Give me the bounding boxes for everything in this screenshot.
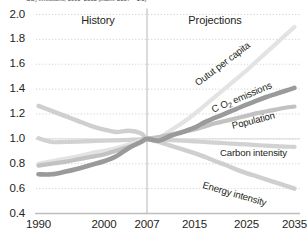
history-zone-label: History bbox=[48, 14, 148, 26]
y-tick-1.2: 1.2 bbox=[1, 107, 25, 119]
y-tick-0.8: 0.8 bbox=[1, 157, 25, 169]
series-label-carbon-intensity: Carbon intensity bbox=[220, 147, 287, 158]
x-tick-2015: 2015 bbox=[173, 218, 217, 230]
x-tick-2035: 2035 bbox=[273, 218, 308, 230]
y-tick-1.8: 1.8 bbox=[1, 32, 25, 44]
x-tick-2007: 2007 bbox=[125, 218, 169, 230]
y-tick-2.0: 2.0 bbox=[1, 8, 25, 20]
x-tick-1990: 1990 bbox=[17, 218, 61, 230]
y-tick-0.6: 0.6 bbox=[1, 182, 25, 194]
y-tick-1.0: 1.0 bbox=[1, 132, 25, 144]
x-tick-2025: 2025 bbox=[225, 218, 269, 230]
projections-zone-label: Projections bbox=[160, 14, 270, 26]
co2-emissions-index-chart: CO₂ emissions, 1990–2035 (index: 2007 = … bbox=[0, 0, 307, 234]
y-tick-1.4: 1.4 bbox=[1, 82, 25, 94]
x-tick-2000: 2000 bbox=[82, 218, 126, 230]
y-tick-1.6: 1.6 bbox=[1, 57, 25, 69]
